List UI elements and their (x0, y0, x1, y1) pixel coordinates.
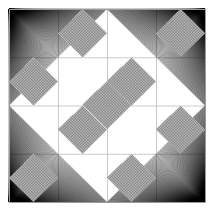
line-art-figure (0, 0, 215, 212)
figure-canvas (0, 0, 215, 212)
